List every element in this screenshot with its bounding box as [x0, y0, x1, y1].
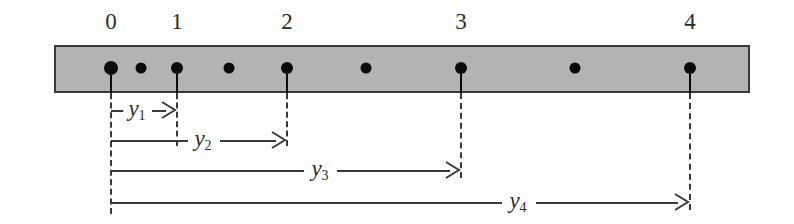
arrow-label-y4-sub: 4 [520, 200, 527, 215]
arrow-shaft-y2-right [220, 140, 276, 142]
arrow-label-y4: y4 [504, 189, 531, 215]
shaded-band [54, 45, 750, 93]
data-point-1 [136, 63, 147, 74]
arrow-head-y1 [161, 101, 177, 119]
arrow-head-y2 [271, 131, 287, 149]
data-point-3 [224, 63, 235, 74]
arrow-label-y2-base: y [194, 126, 204, 151]
arrow-label-y3-base: y [311, 156, 321, 181]
data-point-stem-6 [460, 68, 462, 93]
tick-label-2: 2 [281, 10, 293, 33]
data-point-stem-8 [689, 68, 691, 93]
arrow-label-y3: y3 [306, 157, 333, 183]
tick-label-3: 3 [455, 10, 467, 33]
arrow-shaft-y4-right [536, 202, 678, 204]
arrow-shaft-y3 [111, 170, 304, 172]
arrow-label-y4-base: y [509, 188, 519, 213]
interval-measurement-diagram: 0 1 2 3 4 [0, 0, 794, 224]
tick-label-1: 1 [171, 10, 183, 33]
data-point-5 [361, 63, 372, 74]
arrow-head-y4 [674, 193, 690, 211]
arrow-label-y2-sub: 2 [205, 138, 212, 153]
arrow-shaft-y2 [111, 140, 188, 142]
arrow-label-y3-sub: 3 [322, 168, 329, 183]
data-point-stem-0 [110, 68, 112, 93]
arrow-shaft-y4 [111, 202, 502, 204]
tick-label-4: 4 [684, 10, 696, 33]
tick-label-0: 0 [105, 10, 117, 33]
arrow-label-y1: y1 [123, 97, 150, 123]
data-point-stem-4 [286, 68, 288, 93]
arrow-head-y3 [445, 161, 461, 179]
arrow-shaft-y3-right [337, 170, 450, 172]
arrow-label-y2: y2 [189, 127, 216, 153]
arrow-label-y1-base: y [128, 96, 138, 121]
data-point-stem-2 [176, 68, 178, 93]
data-point-7 [570, 63, 581, 74]
arrow-label-y1-sub: 1 [139, 108, 146, 123]
